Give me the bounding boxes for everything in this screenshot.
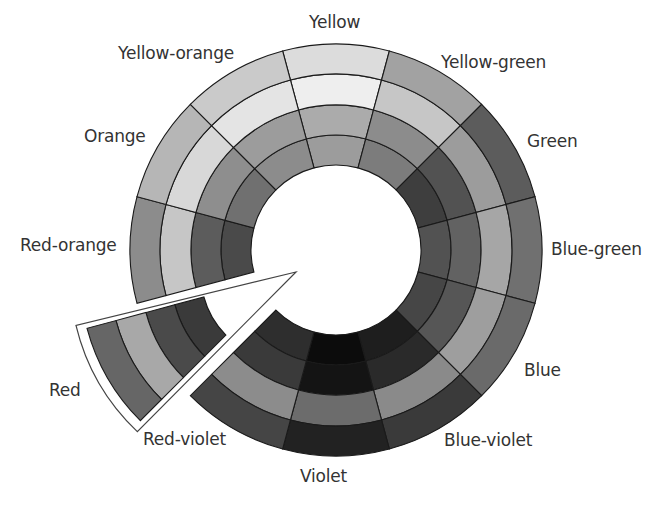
segment-red-orange-tint [160, 204, 196, 295]
segment-violet-tint [290, 390, 381, 426]
segment-violet-tone [298, 361, 373, 395]
segment-blue-green-shade [418, 220, 451, 280]
label-green: Green [527, 133, 577, 150]
label-red: Red [49, 382, 81, 399]
segment-yellow-tint [290, 74, 381, 110]
label-blue: Blue [524, 362, 561, 379]
segment-blue-green-tint [476, 204, 512, 295]
label-yellow-orange: Yellow-orange [118, 45, 234, 62]
wheel-segments [130, 44, 542, 456]
label-yellow-green: Yellow-green [441, 54, 546, 71]
label-blue-violet: Blue-violet [444, 432, 532, 449]
label-orange: Orange [84, 128, 146, 145]
segment-red-orange-shade [221, 220, 254, 280]
segment-blue-green-tone [447, 212, 481, 287]
segment-violet-shade [306, 332, 366, 365]
label-yellow: Yellow [309, 14, 360, 31]
segment-red-orange-tone [191, 212, 225, 287]
segment-yellow-tone [298, 105, 373, 139]
label-blue-green: Blue-green [551, 241, 642, 258]
label-red-orange: Red-orange [20, 237, 117, 254]
label-violet: Violet [300, 468, 347, 485]
segment-yellow-shade [306, 135, 366, 168]
label-red-violet: Red-violet [143, 431, 226, 448]
